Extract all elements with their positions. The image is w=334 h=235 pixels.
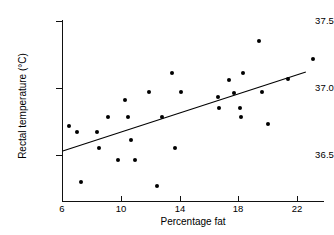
data-point	[97, 146, 101, 150]
data-point	[79, 180, 83, 184]
y-tick-label-37.0: 37.0	[298, 83, 334, 93]
x-tick-6	[62, 196, 63, 201]
data-point	[133, 158, 137, 162]
x-axis-line	[62, 201, 324, 202]
y-tick-37.0	[56, 88, 62, 89]
data-point	[173, 146, 177, 150]
data-point	[106, 115, 110, 119]
y-tick-36.5	[56, 155, 62, 156]
y-axis-title: Rectal temperature (°C)	[17, 31, 29, 181]
data-point	[160, 115, 164, 119]
data-point	[239, 115, 243, 119]
data-point	[116, 158, 120, 162]
x-tick-label-22: 22	[282, 204, 312, 214]
y-tick-label-37.5: 37.5	[298, 16, 334, 26]
plot-area: 37.5 37.0 36.5 6 10 14 18 22 Percentage …	[0, 0, 334, 235]
scatter-chart-figure: 37.5 37.0 36.5 6 10 14 18 22 Percentage …	[0, 0, 334, 235]
data-point	[129, 138, 133, 142]
data-point	[238, 106, 242, 110]
data-point	[257, 39, 261, 43]
data-point	[217, 106, 221, 110]
data-point	[241, 71, 245, 75]
x-tick-22	[297, 196, 298, 201]
data-point	[67, 124, 71, 128]
data-point	[260, 90, 264, 94]
x-tick-label-18: 18	[223, 204, 253, 214]
data-point	[95, 130, 99, 134]
x-tick-label-6: 6	[47, 204, 77, 214]
data-point	[147, 90, 151, 94]
data-point	[266, 122, 270, 126]
x-tick-10	[121, 196, 122, 201]
x-axis-title: Percentage fat	[62, 216, 324, 228]
data-point	[170, 71, 174, 75]
data-point	[155, 184, 159, 188]
y-axis-line	[62, 20, 63, 202]
y-tick-37.5	[56, 21, 62, 22]
data-point	[286, 77, 290, 81]
data-point	[126, 115, 130, 119]
data-point	[179, 90, 183, 94]
data-point	[311, 57, 315, 61]
y-tick-label-36.5: 36.5	[298, 150, 334, 160]
data-point	[227, 78, 231, 82]
data-point	[123, 98, 127, 102]
x-tick-14	[180, 196, 181, 201]
x-tick-18	[238, 196, 239, 201]
regression-line	[0, 0, 334, 235]
x-tick-label-10: 10	[106, 204, 136, 214]
x-tick-label-14: 14	[165, 204, 195, 214]
data-point	[75, 130, 79, 134]
data-point	[232, 91, 236, 95]
data-point	[216, 95, 220, 99]
